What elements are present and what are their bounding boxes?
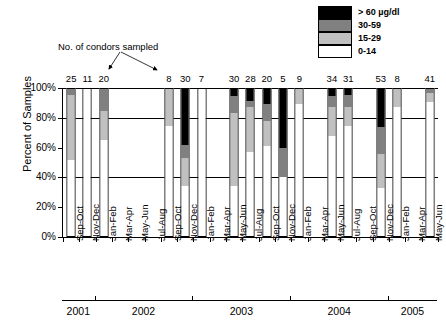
- sample-count-label: 28: [245, 73, 256, 84]
- bar-segment: [247, 107, 254, 153]
- year-label: 2003: [192, 305, 290, 317]
- x-tick-marks: [63, 237, 438, 242]
- x-category-label: Jan-Feb: [302, 206, 313, 241]
- year-tick: [95, 296, 96, 301]
- legend-0-14: 0-14: [318, 45, 399, 58]
- x-category-label: Nov-Dec: [188, 204, 199, 241]
- bar-segment: [377, 154, 384, 188]
- sample-count-label: 34: [327, 73, 338, 84]
- y-tick-label: 80%: [16, 112, 56, 123]
- x-category-label: Sep-Oct: [367, 206, 378, 241]
- year-axis-line: [62, 300, 437, 301]
- sample-count-label: 8: [394, 73, 399, 84]
- sample-count-label: 41: [424, 73, 435, 84]
- bar-segment: [198, 89, 205, 236]
- y-tick-mark: [58, 88, 62, 89]
- y-tick-label: 0%: [16, 231, 56, 242]
- legend-label: 0-14: [358, 45, 376, 58]
- x-category-label: Nov-Dec: [384, 204, 395, 241]
- sample-count-label: 7: [199, 73, 204, 84]
- bar-segment: [296, 89, 303, 104]
- legend-swatch: [318, 32, 352, 45]
- x-category-label: Sep-Oct: [172, 206, 183, 241]
- year-tick: [290, 296, 291, 301]
- legend-label: 30-59: [358, 19, 381, 32]
- sample-count-label: 31: [343, 73, 354, 84]
- bar-series-container: 251120830730282059343153841: [63, 88, 438, 237]
- bar-segment: [377, 127, 384, 153]
- x-category-label: Jan-Feb: [205, 206, 216, 241]
- year-label: 2005: [388, 305, 437, 317]
- x-tick: [63, 237, 64, 242]
- year-tick: [192, 296, 193, 301]
- year-label: 2001: [62, 305, 95, 317]
- sample-count-annotation: No. of condors sampled: [58, 41, 158, 52]
- y-tick-label: 40%: [16, 171, 56, 182]
- bar-segment: [247, 89, 254, 101]
- chart-root: > 60 µg/dl30-5915-290-14 No. of condors …: [0, 0, 446, 335]
- bar-segment: [426, 93, 433, 102]
- y-tick-mark: [58, 118, 62, 119]
- y-tick-label: 100%: [16, 82, 56, 93]
- y-tick-label: 60%: [16, 142, 56, 153]
- sample-count-label: 5: [280, 73, 285, 84]
- bar-segment: [345, 95, 352, 107]
- bar-segment: [182, 158, 189, 186]
- x-category-label: May-Jun: [335, 205, 346, 241]
- bar-segment: [263, 121, 270, 146]
- bar-segment: [182, 89, 189, 145]
- year-tick: [388, 296, 389, 301]
- legend: > 60 µg/dl30-5915-290-14: [318, 6, 399, 58]
- sample-count-label: 53: [375, 73, 386, 84]
- legend-swatch: [318, 45, 352, 58]
- bar-segment: [182, 145, 189, 158]
- legend-30-59: 30-59: [318, 19, 399, 32]
- sample-count-label: 20: [98, 73, 109, 84]
- x-category-label: Jan-Feb: [400, 206, 411, 241]
- legend-swatch: [318, 6, 352, 19]
- x-category-label: Jul-Aug: [156, 209, 167, 241]
- bar-segment: [345, 107, 352, 126]
- y-tick-mark: [58, 148, 62, 149]
- x-category-label: Jan-Feb: [107, 206, 118, 241]
- x-category-label: Mar-Apr: [221, 207, 232, 241]
- x-category-label: Jul-Aug: [253, 209, 264, 241]
- legend-over60: > 60 µg/dl: [318, 6, 399, 19]
- x-category-label: Mar-Apr: [416, 207, 427, 241]
- year-label: 2004: [290, 305, 388, 317]
- bar-segment: [100, 111, 107, 140]
- bar-segment: [394, 89, 401, 107]
- sample-count-label: 30: [229, 73, 240, 84]
- bar-segment: [328, 89, 335, 96]
- legend-swatch: [318, 19, 352, 32]
- bar-segment: [231, 113, 238, 187]
- sample-count-label: 9: [297, 73, 302, 84]
- bar-segment: [231, 89, 238, 96]
- x-category-label: May-Jun: [237, 205, 248, 241]
- bar-segment: [68, 95, 75, 160]
- bar-segment: [280, 148, 287, 177]
- bar-segment: [165, 89, 172, 126]
- legend-label: > 60 µg/dl: [358, 6, 399, 19]
- y-tick-mark: [58, 207, 62, 208]
- x-category-label: May-Jun: [139, 205, 150, 241]
- year-label: 2002: [95, 305, 193, 317]
- x-category-label: Mar-Apr: [123, 207, 134, 241]
- sample-count-label: 11: [83, 73, 93, 84]
- year-labels: 20012002200320042005: [62, 305, 437, 321]
- bar-segment: [328, 107, 335, 136]
- bar-segment: [263, 104, 270, 122]
- y-tick-label: 20%: [16, 201, 56, 212]
- bar-segment: [328, 96, 335, 106]
- sample-count-label: 20: [261, 73, 272, 84]
- x-category-label: May-Jun: [433, 205, 444, 241]
- x-category-label: Sep-Oct: [270, 206, 281, 241]
- bar-segment: [377, 89, 384, 127]
- legend-15-29: 15-29: [318, 32, 399, 45]
- x-category-label: Mar-Apr: [319, 207, 330, 241]
- legend-label: 15-29: [358, 32, 381, 45]
- sample-count-label: 25: [66, 73, 77, 84]
- sample-count-label: 30: [180, 73, 191, 84]
- x-category-label: Nov-Dec: [286, 204, 297, 241]
- x-category-label: Sep-Oct: [74, 206, 85, 241]
